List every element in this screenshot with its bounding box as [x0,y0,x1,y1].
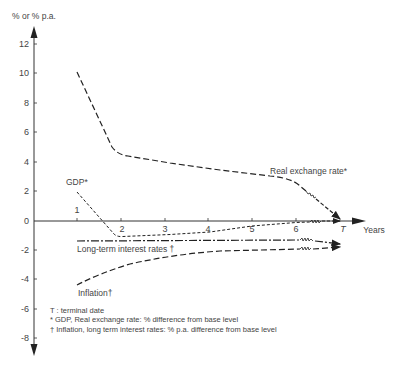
gdp-label: GDP* [66,177,88,187]
y-tick: 2 [24,186,29,196]
inflation-label: Inflation† [78,288,113,298]
y-tick: 10 [19,68,29,78]
y-axis: % or % p.a. 12 10 8 6 4 2 0 -2 -4 -6 -8 [12,11,56,356]
x-tick: 3 [162,224,167,234]
y-tick: 0 [24,216,29,226]
series-inflation: Inflation† [77,247,340,298]
series-gdp: GDP* [66,177,340,237]
note-inflation-ltir: † Inflation, long term interest rates: %… [50,325,277,335]
x-axis-label: Years [363,225,384,235]
x-tick-terminal: T [340,224,347,234]
y-tick: -4 [21,274,29,284]
y-tick: 6 [24,127,29,137]
x-tick: 1 [74,205,79,215]
x-tick: 2 [119,224,124,234]
note-gdp-rer: * GDP, Real exchange rate: % difference … [50,315,238,325]
y-axis-up-arrow-icon [31,26,38,38]
x-axis: 1 2 3 4 5 6 T Years [34,205,385,235]
series-real-exchange-rate: Real exchange rate* [77,72,348,219]
x-axis-arrow-icon [352,218,366,225]
y-tick: -8 [21,333,29,343]
y-tick: -6 [21,304,29,314]
y-tick: 4 [24,157,29,167]
y-tick: -2 [21,245,29,255]
y-tick: 12 [19,39,29,49]
y-axis-label: % or % p.a. [12,11,56,21]
y-tick: 8 [24,98,29,108]
long-term-interest-rates-label: Long-term interest rates † [77,244,175,254]
real-exchange-rate-label: Real exchange rate* [270,166,348,176]
x-tick: 6 [293,224,298,234]
y-axis-down-arrow-icon [31,344,38,356]
